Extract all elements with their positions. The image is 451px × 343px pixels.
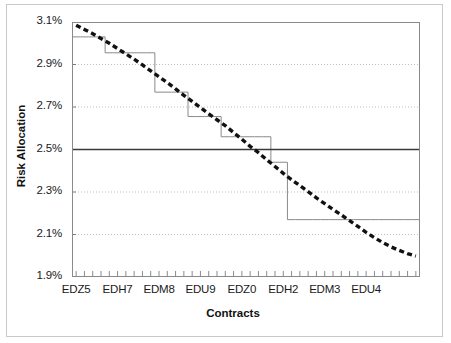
dashed-series-line — [76, 25, 416, 256]
plot-top-border — [72, 22, 420, 23]
plot-svg — [72, 22, 420, 277]
y-axis-line — [72, 22, 73, 277]
chart-container: Risk Allocation Contracts 3.1%2.9%2.7%2.… — [0, 0, 451, 343]
y-tick-label: 1.9% — [18, 269, 62, 281]
x-axis-title: Contracts — [153, 307, 313, 319]
y-tick-label: 2.3% — [18, 184, 62, 196]
y-tick-label: 2.9% — [18, 57, 62, 69]
x-tick-label: EDU4 — [339, 283, 393, 295]
plot-area — [72, 22, 420, 277]
plot-right-border — [419, 22, 420, 277]
y-tick-label: 2.5% — [18, 142, 62, 154]
y-tick-label: 2.1% — [18, 227, 62, 239]
y-tick-label: 2.7% — [18, 99, 62, 111]
y-tick-label: 3.1% — [18, 14, 62, 26]
x-axis-line — [72, 276, 420, 277]
